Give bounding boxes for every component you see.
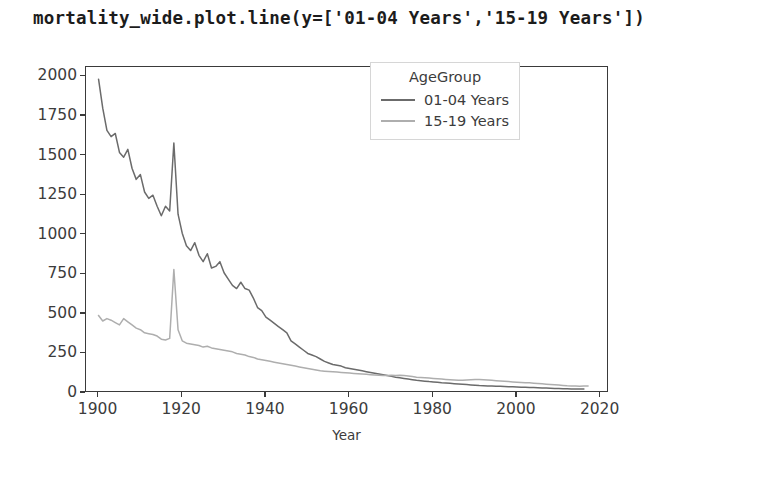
x-axis-tick-label: 1980 xyxy=(413,400,452,418)
legend-entry[interactable]: 01-04 Years xyxy=(381,89,509,110)
x-axis-tick-label: 1960 xyxy=(329,400,368,418)
line-chart-lines xyxy=(86,67,609,393)
legend-entry-label: 01-04 Years xyxy=(424,92,509,108)
matplotlib-figure: 025050075010001250150017502000 190019201… xyxy=(0,48,660,468)
legend-entries: 01-04 Years15-19 Years xyxy=(381,89,509,131)
x-axis-tick-mark xyxy=(599,392,600,397)
x-axis-tick-mark xyxy=(181,392,182,397)
x-axis-tick-label: 1940 xyxy=(245,400,284,418)
y-axis-tick-label: 500 xyxy=(15,304,77,322)
y-axis-tick-label: 1500 xyxy=(15,146,77,164)
x-axis-tick-mark xyxy=(515,392,516,397)
y-axis-tick-label: 250 xyxy=(15,343,77,361)
y-axis-tick-label: 1000 xyxy=(15,225,77,243)
series-line xyxy=(99,270,589,387)
x-axis-tick-label: 1900 xyxy=(78,400,117,418)
x-axis-tick-mark xyxy=(432,392,433,397)
plot-area xyxy=(85,66,608,392)
legend-entry[interactable]: 15-19 Years xyxy=(381,110,509,131)
y-axis-tick-label: 0 xyxy=(15,383,77,401)
x-axis-tick-label: 1920 xyxy=(161,400,200,418)
legend-line-swatch xyxy=(381,120,415,122)
x-axis-tick-mark xyxy=(97,392,98,397)
notebook-output-cell: mortality_wide.plot.line(y=['01-04 Years… xyxy=(0,0,769,477)
legend-entry-label: 15-19 Years xyxy=(424,113,509,129)
x-axis-tick-label: 2020 xyxy=(580,400,619,418)
code-line: mortality_wide.plot.line(y=['01-04 Years… xyxy=(33,8,645,28)
legend-title: AgeGroup xyxy=(381,69,509,85)
y-axis-tick-label: 2000 xyxy=(15,66,77,84)
y-axis-tick-label: 1250 xyxy=(15,185,77,203)
y-axis-tick-label: 750 xyxy=(15,264,77,282)
x-axis-tick-label: 2000 xyxy=(496,400,535,418)
x-axis-title: Year xyxy=(85,427,608,443)
chart-legend[interactable]: AgeGroup 01-04 Years15-19 Years xyxy=(370,62,520,140)
y-axis-tick-label: 1750 xyxy=(15,106,77,124)
x-axis-tick-mark xyxy=(264,392,265,397)
legend-line-swatch xyxy=(381,99,415,101)
x-axis-tick-mark xyxy=(348,392,349,397)
